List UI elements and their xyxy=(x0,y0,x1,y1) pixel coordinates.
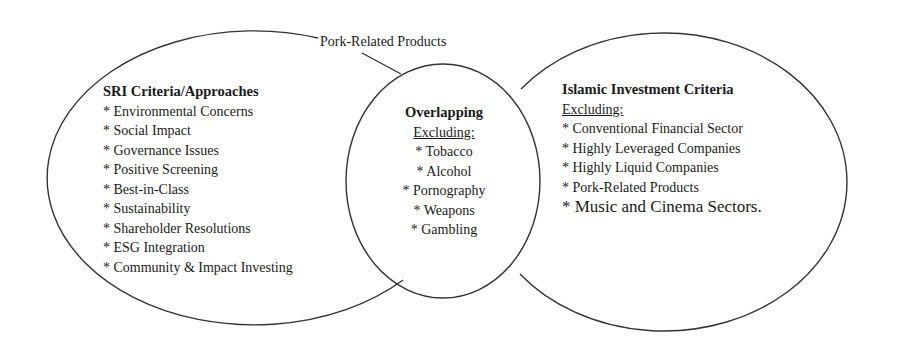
left-set-item: * ESG Integration xyxy=(103,238,293,258)
overlap-item: * Gambling xyxy=(383,220,505,240)
right-set-item: * Highly Leveraged Companies xyxy=(562,139,762,159)
left-set-item: * Social Impact xyxy=(103,121,293,141)
pork-related-callout-label: Pork-Related Products xyxy=(319,34,447,50)
overlap-item: * Alcohol xyxy=(383,162,505,182)
right-set-content: Islamic Investment Criteria Excluding: *… xyxy=(562,80,762,217)
overlap-subtitle: Excluding: xyxy=(383,123,505,143)
overlap-title: Overlapping xyxy=(383,103,505,123)
right-set-item: * Music and Cinema Sectors. xyxy=(562,197,762,217)
right-set-subtitle: Excluding: xyxy=(562,100,762,120)
left-set-item: * Positive Screening xyxy=(103,160,293,180)
left-set-item: * Community & Impact Investing xyxy=(103,258,293,278)
right-set-item: * Pork-Related Products xyxy=(562,178,762,198)
left-set-title: SRI Criteria/Approaches xyxy=(103,82,293,102)
left-set-item: * Sustainability xyxy=(103,199,293,219)
right-set-item: * Conventional Financial Sector xyxy=(562,119,762,139)
right-set-item: * Highly Liquid Companies xyxy=(562,158,762,178)
left-set-item: * Environmental Concerns xyxy=(103,102,293,122)
left-set-item: * Best-in-Class xyxy=(103,180,293,200)
overlap-item: * Weapons xyxy=(383,201,505,221)
overlap-item: * Pornography xyxy=(383,181,505,201)
left-set-item: * Shareholder Resolutions xyxy=(103,219,293,239)
overlap-content: Overlapping Excluding: * Tobacco * Alcoh… xyxy=(383,103,505,240)
right-set-title: Islamic Investment Criteria xyxy=(562,80,762,100)
overlap-item: * Tobacco xyxy=(383,142,505,162)
callout-leader-line xyxy=(362,53,401,74)
left-set-item: * Governance Issues xyxy=(103,141,293,161)
left-set-content: SRI Criteria/Approaches * Environmental … xyxy=(103,82,293,277)
